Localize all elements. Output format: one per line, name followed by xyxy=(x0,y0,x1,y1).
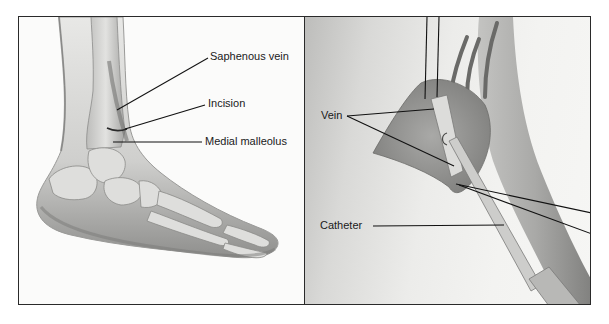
label-catheter: Catheter xyxy=(320,219,362,231)
retractor-band xyxy=(478,17,591,305)
label-medial-malleolus: Medial malleolus xyxy=(205,135,287,147)
panel-venous-cutdown xyxy=(304,16,591,305)
medical-illustration: Saphenous vein Incision Medial malleolus… xyxy=(0,0,609,324)
cutdown-illustration xyxy=(305,17,591,305)
label-vein: Vein xyxy=(321,109,342,121)
label-saphenous-vein: Saphenous vein xyxy=(210,50,289,62)
label-incision: Incision xyxy=(208,97,245,109)
